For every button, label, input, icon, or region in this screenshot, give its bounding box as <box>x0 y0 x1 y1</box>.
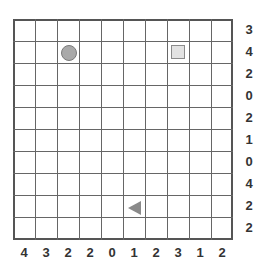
grid-cell[interactable] <box>79 107 101 129</box>
grid-cell[interactable] <box>189 151 211 173</box>
grid-cell[interactable] <box>211 19 233 41</box>
grid-cell[interactable] <box>13 217 35 239</box>
grid-cell[interactable] <box>101 107 123 129</box>
grid-cell[interactable] <box>189 173 211 195</box>
grid-cell[interactable] <box>35 151 57 173</box>
grid-cell[interactable] <box>79 217 101 239</box>
grid-cell[interactable] <box>145 195 167 217</box>
grid-cell[interactable] <box>101 151 123 173</box>
grid-cell[interactable] <box>189 217 211 239</box>
grid-cell[interactable] <box>35 129 57 151</box>
grid-cell[interactable] <box>79 85 101 107</box>
grid-cell[interactable] <box>13 129 35 151</box>
grid-cell[interactable] <box>101 63 123 85</box>
grid-cell[interactable] <box>123 85 145 107</box>
grid-cell[interactable] <box>13 19 35 41</box>
grid-cell[interactable] <box>35 19 57 41</box>
grid-cell[interactable] <box>145 129 167 151</box>
grid-cell[interactable] <box>123 19 145 41</box>
grid-cell[interactable] <box>79 173 101 195</box>
grid-cell[interactable] <box>167 151 189 173</box>
grid-cell[interactable] <box>57 195 79 217</box>
grid-cell[interactable] <box>167 63 189 85</box>
grid-cell[interactable] <box>145 151 167 173</box>
grid-cell[interactable] <box>101 19 123 41</box>
grid-cell[interactable] <box>167 217 189 239</box>
grid-cell[interactable] <box>79 19 101 41</box>
grid-cell[interactable] <box>211 217 233 239</box>
grid-cell[interactable] <box>101 173 123 195</box>
grid-cell[interactable] <box>145 217 167 239</box>
grid-cell[interactable] <box>35 173 57 195</box>
circle-piece[interactable] <box>61 45 77 61</box>
grid-cell[interactable] <box>57 107 79 129</box>
grid-cell[interactable] <box>79 195 101 217</box>
grid-cell[interactable] <box>123 107 145 129</box>
grid-cell[interactable] <box>189 19 211 41</box>
grid-cell[interactable] <box>57 151 79 173</box>
grid-cell[interactable] <box>57 85 79 107</box>
grid-cell[interactable] <box>145 85 167 107</box>
grid-cell[interactable] <box>57 19 79 41</box>
grid-cell[interactable] <box>189 63 211 85</box>
grid-cell[interactable] <box>13 151 35 173</box>
grid-cell[interactable] <box>211 129 233 151</box>
grid-cell[interactable] <box>101 195 123 217</box>
grid-cell[interactable] <box>167 19 189 41</box>
grid-cell[interactable] <box>167 107 189 129</box>
grid-cell[interactable] <box>79 151 101 173</box>
grid-cell[interactable] <box>123 41 145 63</box>
grid-cell[interactable] <box>211 107 233 129</box>
square-piece[interactable] <box>171 45 185 59</box>
grid-cell[interactable] <box>35 195 57 217</box>
grid-cell[interactable] <box>79 63 101 85</box>
grid-cell[interactable] <box>35 107 57 129</box>
grid-cell[interactable] <box>79 41 101 63</box>
grid-cell[interactable] <box>101 85 123 107</box>
grid-cell[interactable] <box>123 173 145 195</box>
grid-cell[interactable] <box>123 63 145 85</box>
grid-cell[interactable] <box>101 129 123 151</box>
triangle-left-piece[interactable] <box>128 201 141 215</box>
grid-cell[interactable] <box>35 41 57 63</box>
grid-cell[interactable] <box>13 173 35 195</box>
grid-cell[interactable] <box>167 129 189 151</box>
grid-cell[interactable] <box>189 85 211 107</box>
grid-cell[interactable] <box>145 63 167 85</box>
grid-cell[interactable] <box>211 195 233 217</box>
grid-cell[interactable] <box>167 85 189 107</box>
grid-cell[interactable] <box>35 217 57 239</box>
grid-cell[interactable] <box>211 85 233 107</box>
grid-cell[interactable] <box>145 173 167 195</box>
grid-cell[interactable] <box>145 19 167 41</box>
grid-cell[interactable] <box>13 195 35 217</box>
grid-cell[interactable] <box>189 195 211 217</box>
grid-cell[interactable] <box>13 41 35 63</box>
grid-cell[interactable] <box>211 41 233 63</box>
grid-cell[interactable] <box>57 173 79 195</box>
grid-cell[interactable] <box>189 107 211 129</box>
grid-cell[interactable] <box>57 217 79 239</box>
grid-cell[interactable] <box>35 63 57 85</box>
grid-cell[interactable] <box>123 151 145 173</box>
grid-cell[interactable] <box>211 151 233 173</box>
grid-cell[interactable] <box>189 129 211 151</box>
grid-cell[interactable] <box>189 41 211 63</box>
grid-cell[interactable] <box>57 129 79 151</box>
grid-cell[interactable] <box>13 63 35 85</box>
grid-cell[interactable] <box>123 217 145 239</box>
grid-cell[interactable] <box>145 107 167 129</box>
grid-cell[interactable] <box>211 63 233 85</box>
grid-cell[interactable] <box>167 195 189 217</box>
grid-cell[interactable] <box>13 85 35 107</box>
grid-cell[interactable] <box>101 217 123 239</box>
grid-cell[interactable] <box>123 129 145 151</box>
grid-cell[interactable] <box>79 129 101 151</box>
grid-cell[interactable] <box>145 41 167 63</box>
grid-cell[interactable] <box>57 63 79 85</box>
grid-cell[interactable] <box>101 41 123 63</box>
grid-cell[interactable] <box>35 85 57 107</box>
grid-cell[interactable] <box>211 173 233 195</box>
grid-cell[interactable] <box>167 173 189 195</box>
grid-cell[interactable] <box>13 107 35 129</box>
